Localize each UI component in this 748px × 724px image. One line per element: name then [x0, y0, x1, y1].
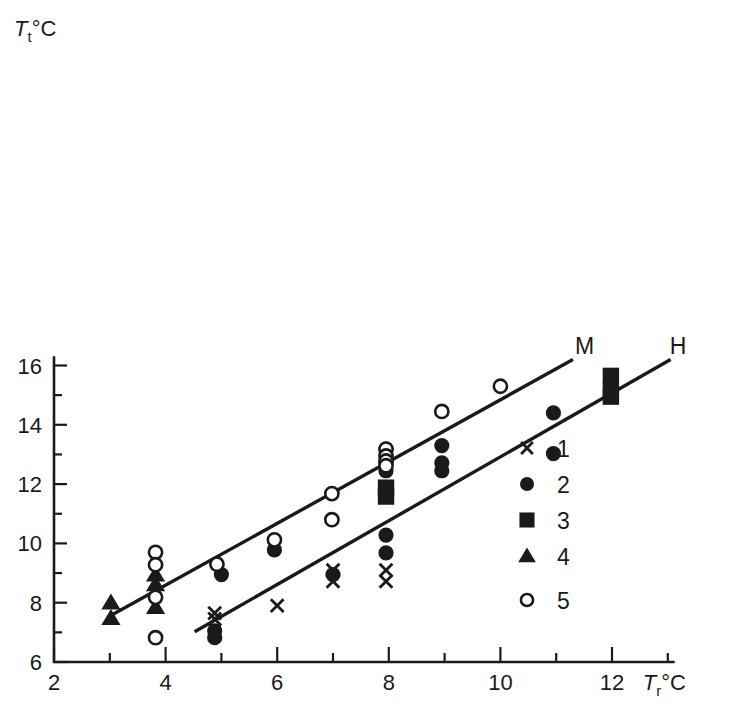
- marker-cross: [271, 599, 284, 612]
- x-tick-label: 4: [159, 670, 171, 695]
- legend-item-5[interactable]: 5: [521, 588, 570, 614]
- marker-square: [378, 488, 394, 504]
- marker-circle-legend: [520, 477, 534, 491]
- marker-circle: [434, 438, 449, 453]
- marker-open-legend: [521, 594, 533, 606]
- legend-item-2[interactable]: 2: [520, 472, 570, 498]
- x-axis-title: Tr°C: [643, 670, 686, 699]
- marker-open: [325, 513, 338, 526]
- marker-circle: [378, 545, 393, 560]
- marker-cross: [380, 564, 393, 577]
- marker-open: [435, 405, 448, 418]
- marker-triangle-legend: [518, 548, 536, 563]
- legend-label: 4: [557, 544, 570, 570]
- marker-circle: [378, 527, 393, 542]
- axis-frame: [54, 358, 673, 663]
- trend-line-h: [195, 360, 671, 632]
- marker-triangle: [101, 594, 120, 610]
- x-tick-label: 10: [488, 670, 512, 695]
- chart-legend: 12345: [518, 436, 570, 614]
- trend-label-h: H: [670, 333, 687, 359]
- y-tick-label: 12: [18, 472, 42, 497]
- trend-line-labels: MH: [575, 333, 686, 359]
- axis-ticks: [54, 366, 668, 663]
- marker-open: [210, 558, 223, 571]
- marker-open: [379, 459, 392, 472]
- marker-circle: [325, 567, 340, 582]
- legend-label: 5: [557, 588, 570, 614]
- marker-circle: [546, 405, 561, 420]
- marker-cross-legend: [521, 442, 533, 454]
- series-5: [149, 380, 507, 645]
- marker-open: [325, 487, 338, 500]
- x-tick-label: 6: [271, 670, 283, 695]
- legend-label: 1: [557, 436, 570, 462]
- marker-open: [149, 631, 162, 644]
- y-tick-label: 10: [18, 531, 42, 556]
- y-tick-label: 8: [30, 591, 42, 616]
- scatter-chart: 681012141624681012 MH 12345 Tt°CTr°C: [0, 0, 748, 724]
- y-tick-label: 14: [18, 413, 42, 438]
- marker-open: [494, 380, 507, 393]
- axes: [54, 358, 673, 663]
- marker-circle: [207, 630, 222, 645]
- legend-item-3[interactable]: 3: [519, 508, 569, 534]
- marker-open: [149, 591, 162, 604]
- marker-circle: [434, 463, 449, 478]
- marker-cross: [380, 575, 393, 588]
- trend-label-m: M: [575, 333, 594, 359]
- x-tick-label: 12: [600, 670, 624, 695]
- chart-canvas: 681012141624681012 MH 12345 Tt°CTr°C: [0, 0, 748, 724]
- trend-line-m: [113, 360, 573, 615]
- data-points: [101, 368, 619, 646]
- marker-open: [268, 533, 281, 546]
- y-axis-title: Tt°C: [14, 16, 56, 45]
- legend-item-4[interactable]: 4: [518, 544, 570, 570]
- legend-label: 2: [557, 472, 570, 498]
- x-tick-label: 2: [48, 670, 60, 695]
- marker-square-legend: [519, 512, 534, 527]
- legend-label: 3: [557, 508, 570, 534]
- y-tick-label: 16: [18, 354, 42, 379]
- x-tick-label: 8: [383, 670, 395, 695]
- marker-square: [603, 388, 619, 404]
- y-tick-label: 6: [30, 650, 42, 675]
- marker-open: [149, 558, 162, 571]
